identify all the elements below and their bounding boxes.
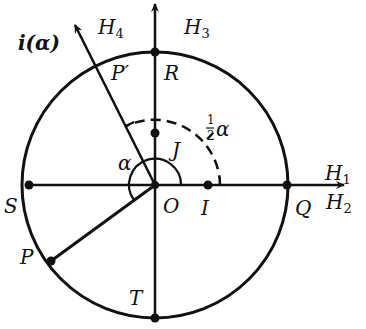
half-alpha-tick-start bbox=[126, 122, 134, 126]
label-T: T bbox=[129, 286, 144, 310]
label-H4: H4 bbox=[97, 15, 124, 41]
point-S bbox=[25, 181, 34, 190]
label-alpha: α bbox=[118, 151, 132, 175]
label-I: I bbox=[200, 196, 210, 220]
segment-OP bbox=[51, 185, 155, 261]
label-half-alpha: α bbox=[216, 117, 230, 141]
point-J bbox=[151, 129, 160, 138]
point-R bbox=[151, 48, 160, 57]
point-P bbox=[47, 257, 56, 266]
label-P-prime: P′ bbox=[110, 61, 129, 85]
point-I bbox=[204, 181, 213, 190]
point-O bbox=[151, 181, 159, 189]
label-half-num: 1 bbox=[207, 113, 215, 127]
label-S: S bbox=[4, 194, 18, 218]
label-half-den: 2 bbox=[207, 129, 215, 143]
label-J: J bbox=[168, 138, 181, 162]
label-i-alpha: i(α) bbox=[18, 31, 60, 55]
label-Q: Q bbox=[295, 196, 311, 220]
label-P: P bbox=[19, 245, 34, 269]
label-H1: H1 bbox=[324, 161, 351, 187]
label-O: O bbox=[163, 194, 179, 218]
label-H3: H3 bbox=[183, 15, 210, 41]
point-T bbox=[151, 314, 160, 323]
point-Q bbox=[283, 181, 292, 190]
label-R: R bbox=[163, 61, 179, 85]
label-H2: H2 bbox=[325, 190, 352, 216]
unit-circle-diagram: i(α) H4 H3 H1 H2 P′ R J α 1 2 α S O I Q … bbox=[0, 0, 366, 329]
